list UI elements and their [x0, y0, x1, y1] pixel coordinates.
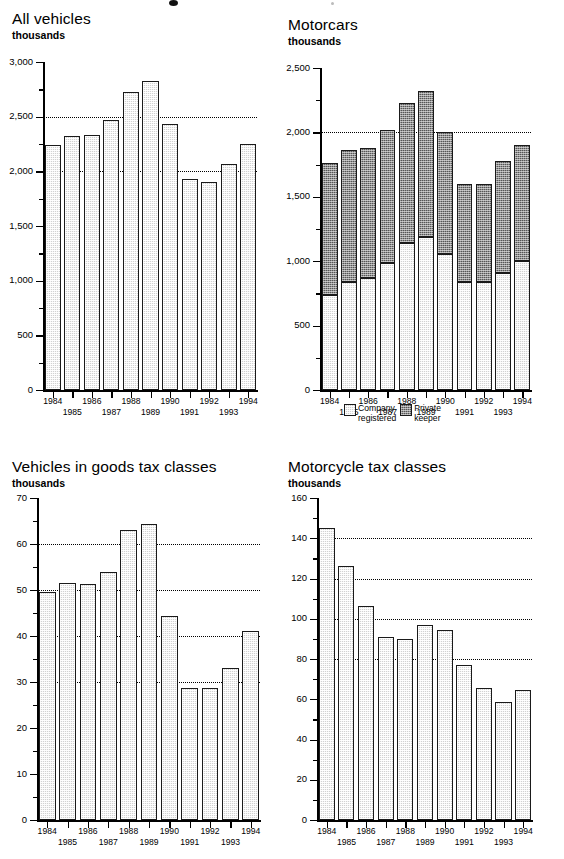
x-axis-tick — [108, 822, 109, 828]
bar — [103, 120, 119, 390]
x-axis-tick — [349, 392, 350, 398]
y-axis-tick — [313, 261, 320, 262]
bar-segment-private-keeper — [418, 91, 434, 237]
ink-speck-artifact — [169, 0, 178, 6]
x-axis-year-label: 1987 — [91, 837, 125, 847]
bar — [80, 584, 97, 820]
bar-segment-private-keeper — [341, 150, 357, 281]
y-axis-minor-tick — [39, 308, 43, 309]
bar — [221, 164, 237, 390]
y-axis-tick-label: 50 — [0, 585, 27, 595]
x-axis-year-label: 1991 — [447, 837, 481, 847]
plot-area-all-vehicles: 05001,0001,5002,0002,5003,000 — [43, 62, 258, 390]
y-axis-tick — [30, 728, 37, 729]
y-axis-tick — [30, 682, 37, 683]
y-axis-minor-tick — [313, 558, 317, 559]
bar — [39, 592, 56, 820]
x-axis-tick — [72, 392, 73, 398]
y-axis-tick-label: 70 — [0, 493, 27, 503]
y-axis-minor-tick — [39, 89, 43, 90]
x-axis-year-label: 1986 — [75, 396, 109, 406]
bar-segment-private-keeper — [437, 132, 453, 254]
y-axis-tick-label: 160 — [269, 493, 307, 503]
bar — [495, 702, 511, 820]
y-axis-tick-label: 20 — [0, 723, 27, 733]
chart-panel-motorcars: Motorcarsthousands — [288, 16, 358, 47]
y-axis-tick — [310, 498, 317, 499]
x-axis-tick — [387, 392, 388, 398]
y-axis-minor-tick — [33, 751, 37, 752]
bar-segment-company-registered — [341, 282, 357, 390]
bar-segment-private-keeper — [457, 184, 473, 282]
y-axis-tick — [36, 117, 43, 118]
bar-segment-company-registered — [418, 237, 434, 390]
y-axis-tick-label: 500 — [0, 330, 33, 340]
x-axis-year-label: 1993 — [487, 837, 521, 847]
bar — [397, 639, 413, 820]
plot-area-motorcars: 05001,0001,5002,0002,500 — [320, 68, 532, 390]
y-axis-tick — [36, 281, 43, 282]
chart-title: Motorcars — [288, 16, 358, 33]
y-axis-tick-label: 0 — [0, 385, 33, 395]
bar — [182, 179, 198, 390]
chart-title: All vehicles — [12, 10, 91, 27]
y-axis-tick-label: 40 — [0, 631, 27, 641]
y-axis-minor-tick — [39, 363, 43, 364]
x-axis-year-label: 1987 — [369, 837, 403, 847]
y-axis-tick-label: 0 — [269, 815, 307, 825]
y-axis-tick — [30, 590, 37, 591]
chart-title: Vehicles in goods tax classes — [12, 458, 217, 475]
y-axis-minor-tick — [39, 199, 43, 200]
y-axis-tick — [310, 780, 317, 781]
x-axis-year-label: 1985 — [51, 837, 85, 847]
y-axis-minor-tick — [313, 760, 317, 761]
chart-units-label: thousands — [12, 29, 91, 41]
y-axis-tick-label: 10 — [0, 769, 27, 779]
bar — [338, 566, 354, 820]
x-axis-tick — [503, 392, 504, 398]
y-axis-tick — [313, 68, 320, 69]
y-axis-minor-tick — [316, 358, 320, 359]
y-axis-tick-label: 20 — [269, 774, 307, 784]
x-axis-year-label: 1990 — [428, 826, 462, 836]
x-axis-year-label: 1994 — [506, 826, 540, 836]
bar — [162, 124, 178, 390]
chart-panel-goods-tax-classes: Vehicles in goods tax classesthousands — [12, 458, 217, 489]
bar — [515, 690, 531, 820]
chart-units-label: thousands — [288, 477, 446, 489]
bar-segment-company-registered — [322, 295, 338, 390]
x-axis-year-label: 1984 — [313, 396, 347, 406]
bar — [123, 92, 139, 390]
y-axis-minor-tick — [33, 705, 37, 706]
x-axis-tick — [190, 822, 191, 828]
x-axis-tick — [465, 392, 466, 398]
bar-segment-company-registered — [495, 273, 511, 390]
bar — [240, 144, 256, 390]
y-axis-tick — [313, 132, 320, 133]
y-axis-tick — [313, 197, 320, 198]
legend-item: Company registered — [344, 404, 396, 423]
x-axis-year-label: 1986 — [349, 826, 383, 836]
y-axis-tick — [36, 390, 43, 391]
legend-item: Private keeper — [400, 404, 441, 423]
x-axis-year-label: 1994 — [231, 396, 265, 406]
bar-segment-private-keeper — [514, 145, 530, 262]
x-axis-year-label: 1992 — [467, 826, 501, 836]
x-axis-tick — [425, 822, 426, 828]
y-axis-tick — [310, 659, 317, 660]
y-axis-minor-tick — [33, 613, 37, 614]
y-axis-tick — [310, 538, 317, 539]
x-axis-year-label: 1986 — [71, 826, 105, 836]
x-axis-year-label: 1988 — [388, 826, 422, 836]
bar-segment-private-keeper — [360, 148, 376, 278]
x-axis-tick — [190, 392, 191, 398]
bar-segment-company-registered — [380, 263, 396, 390]
y-axis-tick-label: 2,000 — [0, 166, 33, 176]
x-axis-year-label: 1984 — [310, 826, 344, 836]
bar-segment-private-keeper — [380, 130, 396, 263]
y-axis-minor-tick — [33, 567, 37, 568]
y-axis-tick-label: 1,000 — [272, 256, 310, 266]
bar-segment-company-registered — [476, 282, 492, 390]
x-axis-tick — [68, 822, 69, 828]
y-axis-tick — [36, 226, 43, 227]
